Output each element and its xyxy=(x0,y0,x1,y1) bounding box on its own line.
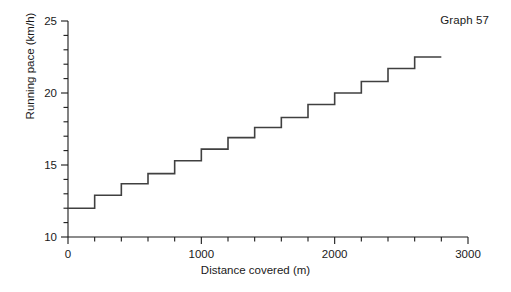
x-tick-label: 3000 xyxy=(455,248,481,260)
y-tick-label: 15 xyxy=(44,159,57,171)
y-tick-label: 20 xyxy=(44,87,57,99)
x-tick-label: 1000 xyxy=(189,248,215,260)
step-series xyxy=(68,57,441,208)
x-tick-label: 0 xyxy=(65,248,71,260)
chart-plot-area: 10152025 0100020003000 xyxy=(0,0,511,292)
y-tick-label: 10 xyxy=(44,231,57,243)
x-axis: 0100020003000 xyxy=(65,237,481,260)
y-tick-label: 25 xyxy=(44,15,57,27)
x-tick-label: 2000 xyxy=(322,248,348,260)
chart-page: Graph 57 Running pace (km/h) Distance co… xyxy=(0,0,511,292)
step-line xyxy=(68,57,441,208)
y-axis: 10152025 xyxy=(44,15,68,243)
